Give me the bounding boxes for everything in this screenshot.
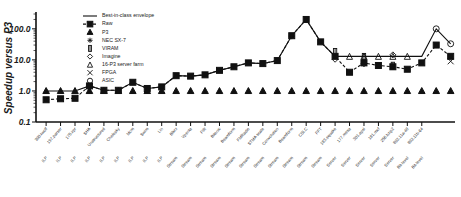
x-group-label: Stream [238,155,251,169]
legend-label-viram: VIRAM [102,45,118,51]
marker-filled-square [419,60,425,66]
marker-filled-square [274,58,280,64]
x-group-label: Stream [310,155,323,169]
marker-filled-triangle [404,88,411,94]
marker-filled-square [72,95,78,101]
marker-filled-square [43,97,49,103]
x-group-label: ILP [98,155,106,163]
marker-filled-triangle [361,88,368,94]
x-group-label: Server [340,155,352,168]
marker-filled-square [260,61,266,67]
marker-filled-triangle [288,88,295,94]
legend-label-asic: ASIC [102,77,114,83]
x-group-label: Server [325,155,337,168]
marker-filled-square [245,60,251,66]
marker-filled-triangle [303,88,310,94]
y-tick-label: 1.0 [19,86,31,96]
x-group-label: Stream [195,155,208,169]
legend-label-nec-sx-7: NEC SX-7 [102,37,126,43]
x-group-label: Server [383,155,395,168]
marker-filled-square [202,72,208,78]
x-tick-label: 175.vpr [64,126,77,140]
marker-filled-square [216,67,222,73]
x-group-label: ILP [142,155,150,163]
marker-open-triangle [87,62,92,67]
marker-filled-triangle [433,88,440,94]
x-group-label: Stream [267,155,280,169]
marker-filled-triangle [130,88,137,94]
marker-filled-triangle [260,88,267,94]
y-tick-label: 10.0 [14,55,31,65]
x-tick-label: 181.mcf [367,126,381,141]
marker-filled-square [58,96,64,102]
marker-filled-square [303,16,309,22]
legend-label-16-p3-server-farm: 16-P3 server farm [102,61,144,67]
x-tick-label: Vpenta [180,126,193,140]
y-tick-label: 0.1 [19,117,31,127]
x-group-label: Stream [166,155,179,169]
x-group-label: Stream [180,155,193,169]
x-tick-label: FIR [199,126,207,134]
legend-label-imagine: Imagine [102,53,121,59]
y-axis-label: Speedup versus P3 [3,21,14,114]
x-group-label: Server [369,155,381,168]
legend-label-p3: P3 [102,29,108,35]
marker-filled-square [87,21,93,27]
marker-filled-triangle [173,88,180,94]
marker-filled-square [173,73,179,79]
marker-filled-square [375,62,381,68]
x-group-label: ILP [40,155,48,163]
legend-label-raw: Raw [102,20,113,26]
marker-filled-square [347,69,353,75]
marker-filled-triangle [447,88,454,94]
x-group-label: Stream [252,155,265,169]
x-tick-label: Beamform [277,126,294,144]
marker-asterisk [87,38,92,43]
legend-label-best-in-class-envelope: Best-in-class envelope [102,12,154,18]
marker-filled-square [188,73,194,79]
x-tick-label: Bitonic [210,126,222,139]
x-group-label: Stream [281,155,294,169]
marker-x-cross [87,70,92,75]
marker-filled-square [433,42,439,48]
marker-open-diamond [87,54,92,59]
x-tick-label: Mcm [125,126,135,136]
x-group-label: ILP [69,155,77,163]
marker-filled-triangle [245,88,252,94]
legend-label-fpga: FPGA [102,69,117,75]
x-tick-label: 802.11b-64 [406,126,424,145]
x-tick-label: 177.mesa [336,126,352,144]
x-group-label: ILP [55,155,63,163]
x-tick-label: Cholesky [105,126,121,143]
x-group-label: ILP [113,155,121,163]
marker-filled-triangle [202,88,209,94]
x-group-label: ILP [156,155,164,163]
marker-filled-square [404,66,410,72]
speedup-chart: 0.11.010.0100.0Speedup versus P3300.twol… [0,0,461,197]
x-group-label: Bit-level [410,155,424,169]
marker-filled-square [448,53,454,59]
marker-filled-triangle [346,88,353,94]
marker-filled-triangle [87,29,93,34]
x-group-label: Server [354,155,366,168]
x-group-label: Stream [296,155,309,169]
x-tick-label: FFT [314,126,323,135]
marker-filled-triangle [231,88,238,94]
marker-filled-square [318,39,324,45]
x-group-label: Stream [223,155,236,169]
marker-filled-square [130,79,136,85]
marker-filled-triangle [187,88,194,94]
x-tick-label: Blkrx [168,126,179,137]
marker-filled-triangle [274,88,281,94]
marker-filled-triangle [390,88,397,94]
marker-filled-triangle [216,88,223,94]
x-tick-label: Beamform [220,126,237,144]
chart-canvas: 0.11.010.0100.0Speedup versus P3300.twol… [0,0,461,197]
x-tick-label: Swim [139,126,150,137]
x-tick-label: 197.parser [46,126,64,145]
x-group-label: Stream [209,155,222,169]
marker-filled-triangle [332,88,339,94]
marker-filled-triangle [418,88,425,94]
x-tick-label: Lin [156,126,164,134]
x-group-label: ILP [127,155,135,163]
